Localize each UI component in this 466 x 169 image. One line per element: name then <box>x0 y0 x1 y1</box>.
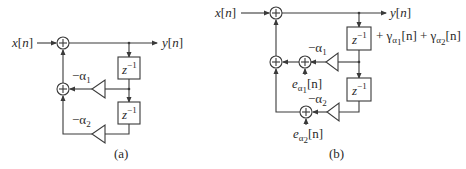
coef-a2: −α2 <box>72 112 91 129</box>
input-label-a: x[n] <box>11 35 33 50</box>
output-correction-terms: + γα1[n] + γα2[n] <box>376 28 461 47</box>
gain-triangle-a2 <box>92 125 105 143</box>
gain-triangle-a1 <box>92 80 105 98</box>
error-input-b2: eα2[n] <box>293 126 323 145</box>
caption-b: (b) <box>329 146 344 161</box>
panel-a: x[n] y[n] z−1 −α1 <box>11 35 183 161</box>
input-label-b: x[n] <box>214 5 236 20</box>
delay-box-b2: z−1 <box>347 78 371 101</box>
adder-top-b <box>270 7 282 19</box>
coef-b1: −α1 <box>308 40 327 57</box>
coef-b2: −α2 <box>308 91 327 108</box>
adder-top-a <box>57 37 69 49</box>
adder-err-b1 <box>299 56 311 68</box>
block-diagrams: x[n] y[n] z−1 −α1 <box>0 0 466 169</box>
coef-a1: −α1 <box>72 68 91 85</box>
delay-box-a1: z−1 <box>118 57 140 79</box>
panel-b: x[n] y[n] + γα1[n] + γα2[n] z−1 −α1 <box>214 5 461 161</box>
delay-box-b1: z−1 <box>347 27 371 50</box>
adder-mid-b <box>270 56 282 68</box>
output-label-a: y[n] <box>160 35 183 50</box>
output-label-b: y[n] <box>388 5 411 20</box>
adder-mid-a <box>57 83 69 95</box>
caption-a: (a) <box>114 146 128 161</box>
gain-triangle-b2 <box>327 103 339 121</box>
gain-triangle-b1 <box>326 53 338 71</box>
delay-box-a2: z−1 <box>118 102 140 124</box>
adder-err-b2 <box>300 106 312 118</box>
